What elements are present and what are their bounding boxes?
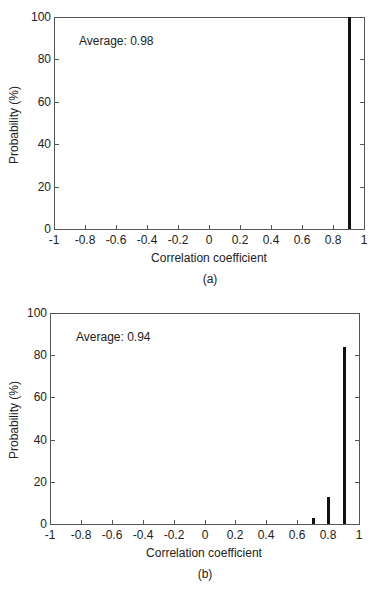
x-tick-label: 0.4 <box>251 529 281 541</box>
y-tick-right <box>355 355 359 356</box>
subplot-caption: (b) <box>185 567 225 581</box>
x-tick <box>266 520 267 524</box>
y-tick-label: 80 <box>17 349 47 361</box>
x-tick-label: -0.8 <box>66 529 96 541</box>
x-tick-label: 1 <box>344 529 374 541</box>
x-tick <box>174 520 175 524</box>
x-tick-label: 0.2 <box>220 529 250 541</box>
y-tick-label: 20 <box>17 476 47 488</box>
x-tick <box>112 520 113 524</box>
x-tick <box>81 520 82 524</box>
x-tick-label: -0.2 <box>159 529 189 541</box>
bar <box>343 347 346 524</box>
x-tick-label: 0.6 <box>282 529 312 541</box>
x-tick-label: -0.4 <box>128 529 158 541</box>
y-tick-right <box>355 440 359 441</box>
y-tick-right <box>355 397 359 398</box>
x-tick <box>205 520 206 524</box>
x-tick-label: 0 <box>190 529 220 541</box>
x-tick <box>297 520 298 524</box>
chart-panel-b: Average: 0.94 Probability (%) Correlatio… <box>0 0 377 593</box>
x-axis-label: Correlation coefficient <box>104 546 304 560</box>
y-tick <box>51 440 55 441</box>
y-tick-label: 100 <box>17 307 47 319</box>
y-tick-label: 60 <box>17 391 47 403</box>
average-annotation: Average: 0.94 <box>76 330 151 344</box>
plot-area <box>50 313 360 525</box>
bar <box>327 497 330 524</box>
x-tick <box>235 520 236 524</box>
y-tick <box>51 355 55 356</box>
bar <box>312 518 315 524</box>
y-tick-right <box>355 482 359 483</box>
y-tick-label: 0 <box>17 518 47 530</box>
x-tick-label: -0.6 <box>97 529 127 541</box>
y-tick-label: 40 <box>17 434 47 446</box>
x-tick <box>143 520 144 524</box>
y-axis-label: Probability (%) <box>7 360 21 480</box>
y-tick <box>51 482 55 483</box>
y-tick <box>51 397 55 398</box>
x-tick-label: 0.8 <box>313 529 343 541</box>
